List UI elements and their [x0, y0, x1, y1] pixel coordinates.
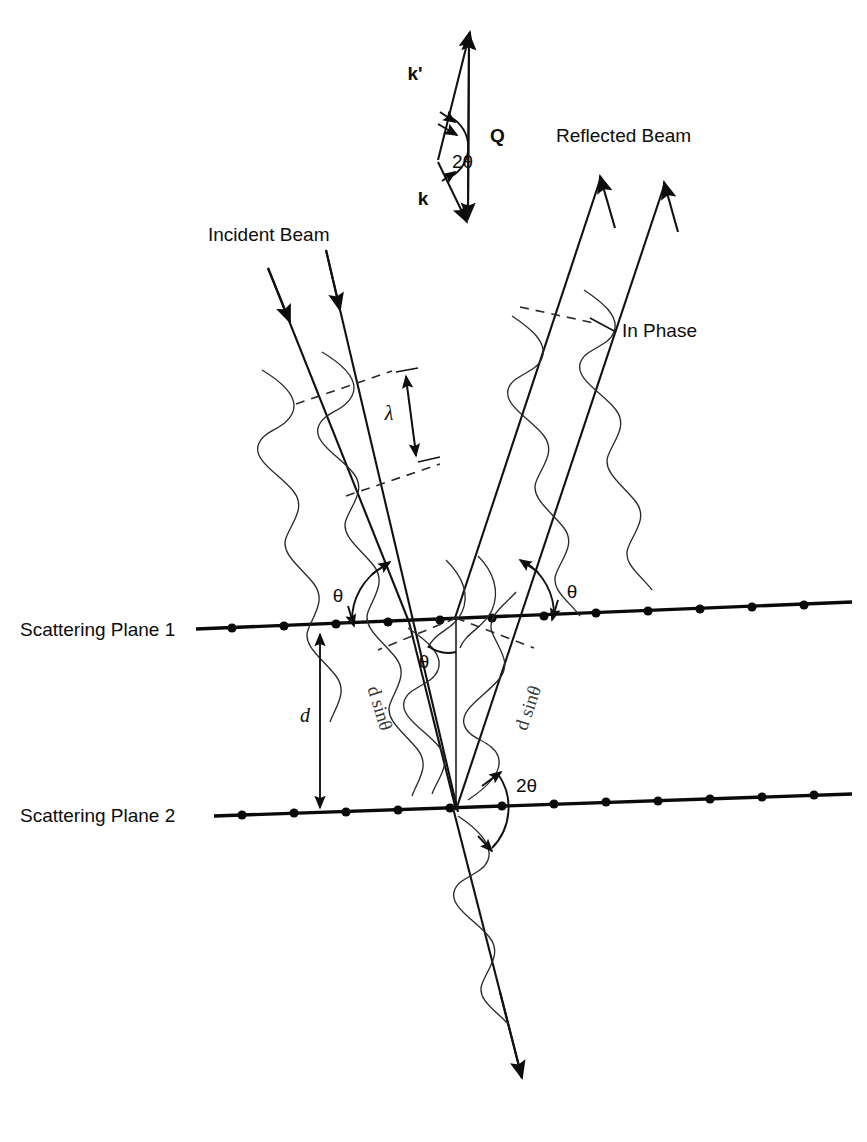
lambda-label: λ — [384, 402, 394, 424]
reflected-ray-1-arrowhead — [600, 176, 615, 228]
in-phase-label: In Phase — [622, 320, 697, 341]
d-sin-theta-left-label: d sinθ — [364, 683, 397, 733]
incident-ray-2-arrowhead — [326, 250, 340, 310]
in-phase-annotation — [520, 307, 616, 332]
Q-label: Q — [490, 125, 505, 146]
d-spacing-label: d — [300, 704, 311, 726]
k-prime-label: k' — [407, 63, 422, 84]
two-theta-bottom-annotation: 2θ — [478, 772, 537, 851]
theta-right-arc-head-top — [520, 560, 538, 572]
wave-reflected-1 — [508, 316, 580, 616]
two-theta-bottom-head-lower — [478, 836, 492, 851]
incident-ray-1-lower-segment — [409, 622, 456, 810]
incident-beam-label: Incident Beam — [208, 224, 329, 245]
incident-ray-1-arrowhead — [268, 268, 290, 322]
lambda-tick-top — [396, 368, 418, 372]
reflected-rays — [455, 176, 678, 810]
d-sin-theta-right-label: d sinθ — [511, 683, 546, 733]
reflected-ray-1 — [455, 180, 600, 618]
incident-rays — [268, 250, 458, 812]
diagram-canvas: k' k Q 2θ Incident Beam Reflected Beam I… — [0, 0, 867, 1142]
k-label: k — [418, 188, 429, 209]
lambda-tick-bottom — [418, 457, 440, 462]
theta-left-annotation: θ — [333, 562, 390, 626]
reflected-ray-2-arrowhead — [664, 182, 678, 232]
wavevector-triangle: k' k Q 2θ — [407, 32, 504, 222]
in-phase-leader-line — [590, 318, 616, 332]
theta-center-label: θ — [419, 651, 430, 672]
lambda-arrow-down — [406, 380, 416, 456]
k-prime-vector-arrow — [438, 32, 470, 160]
two-theta-vector-label: 2θ — [452, 151, 473, 172]
theta-center-dashed-right — [456, 618, 534, 648]
reflected-beam-label: Reflected Beam — [556, 125, 691, 146]
bragg-diffraction-figure: k' k Q 2θ Incident Beam Reflected Beam I… — [0, 0, 867, 1142]
two-theta-bottom-head-upper — [482, 772, 501, 786]
theta-left-label: θ — [333, 585, 344, 606]
momentum-transfer-vector-up — [468, 34, 469, 215]
theta-right-label: θ — [567, 581, 578, 602]
scattering-plane-2-label: Scattering Plane 2 — [20, 805, 175, 826]
scattering-plane-1-label: Scattering Plane 1 — [20, 619, 175, 640]
d-spacing-measure: d — [300, 634, 320, 808]
wavefront-dashed-lower — [346, 464, 440, 496]
two-theta-bottom-label: 2θ — [516, 775, 537, 796]
plane-2-line — [214, 794, 852, 816]
transmitted-ray-arrowhead — [500, 992, 522, 1078]
two-theta-bottom-arc — [492, 774, 509, 848]
wave-incident-2 — [318, 352, 424, 796]
